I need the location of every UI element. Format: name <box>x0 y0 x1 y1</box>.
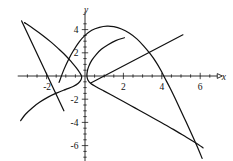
y-tick-label-4: 4 <box>74 25 79 35</box>
x-axis-label: x <box>221 72 227 82</box>
y-axis-label: y <box>83 5 89 15</box>
x-tick-label-2: 2 <box>121 82 126 92</box>
y-tick-label-neg2: -2 <box>71 95 79 105</box>
y-tick-label-2: 2 <box>74 48 79 58</box>
coordinate-plot: -224642-2-4-6 x y <box>0 0 233 161</box>
x-tick-label-6: 6 <box>198 82 203 92</box>
y-tick-label-neg4: -4 <box>71 118 79 128</box>
x-tick-label-4: 4 <box>159 82 164 92</box>
y-tick-label-neg6: -6 <box>71 141 79 151</box>
x-tick-label-neg2: -2 <box>43 82 51 92</box>
curve-descending-line <box>22 21 64 111</box>
graph-figure: -224642-2-4-6 x y <box>0 0 233 161</box>
curve-downward-parabola <box>59 26 202 158</box>
